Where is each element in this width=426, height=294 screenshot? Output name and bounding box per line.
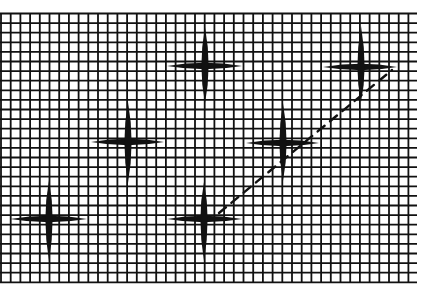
grid-diagram xyxy=(0,0,426,294)
